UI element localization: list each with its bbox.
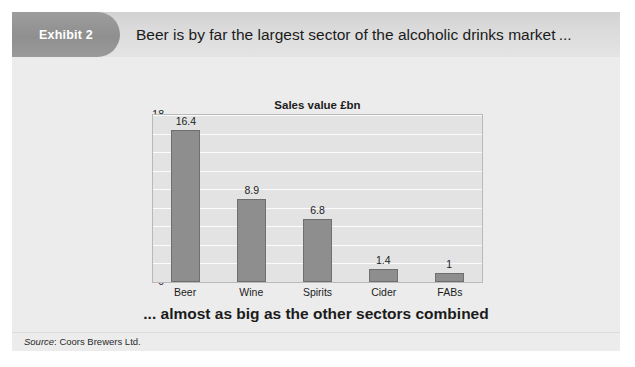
source-value: Coors Brewers Ltd. <box>59 336 140 347</box>
x-tick-label: Spirits <box>284 286 350 298</box>
exhibit-headline: Beer is by far the largest sector of the… <box>136 12 572 57</box>
bar-group-wine[interactable]: 8.9 <box>219 115 285 282</box>
x-tick-label: Cider <box>351 286 417 298</box>
bar[interactable] <box>237 199 266 282</box>
exhibit-card: Exhibit 2 Beer is by far the largest sec… <box>12 12 620 351</box>
x-tick-label: Beer <box>152 286 218 298</box>
exhibit-badge: Exhibit 2 <box>12 12 120 57</box>
bar-value-label: 1 <box>416 258 482 270</box>
source-note: Source: Coors Brewers Ltd. <box>24 336 141 347</box>
bar[interactable] <box>435 273 464 282</box>
x-axis: BeerWineSpiritsCiderFABs <box>152 286 483 298</box>
bar-value-label: 16.4 <box>153 115 219 127</box>
bar[interactable] <box>303 219 332 282</box>
bar-chart: Sales value £bn 181614121086420 16.48.96… <box>12 57 620 307</box>
exhibit-header: Exhibit 2 Beer is by far the largest sec… <box>12 12 620 57</box>
plot-area: 16.48.96.81.41 <box>152 114 483 283</box>
exhibit-body: Sales value £bn 181614121086420 16.48.96… <box>12 57 620 351</box>
x-tick-label: Wine <box>218 286 284 298</box>
x-tick-label: FABs <box>417 286 483 298</box>
bar-series: 16.48.96.81.41 <box>153 115 482 282</box>
chart-title: Sales value £bn <box>152 99 483 111</box>
chart-caption: ... almost as big as the other sectors c… <box>12 305 620 323</box>
source-label: Source <box>24 336 54 347</box>
bar-value-label: 8.9 <box>219 184 285 196</box>
bar-group-cider[interactable]: 1.4 <box>350 115 416 282</box>
bar[interactable] <box>171 130 200 282</box>
bar-group-fabs[interactable]: 1 <box>416 115 482 282</box>
bar-group-beer[interactable]: 16.4 <box>153 115 219 282</box>
bar[interactable] <box>369 269 398 282</box>
source-divider <box>12 332 620 333</box>
bar-group-spirits[interactable]: 6.8 <box>285 115 351 282</box>
bar-value-label: 6.8 <box>285 204 351 216</box>
bar-value-label: 1.4 <box>350 254 416 266</box>
